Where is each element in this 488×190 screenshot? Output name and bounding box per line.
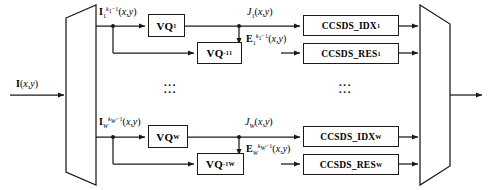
block-diagram: I(x,y) I1k1−1(x,y) IWkW−1(x,y) J1(x,y) J… <box>0 0 488 190</box>
ellipsis-left: ······ <box>160 82 180 95</box>
index-signal-label-1: J1(x,y) <box>247 6 273 17</box>
ccsds-idx-block-w[interactable]: CCSDS_IDXW <box>303 126 399 147</box>
junction-dot <box>237 135 241 139</box>
input-signal-label: I(x,y) <box>16 78 38 89</box>
junction-dot <box>237 24 241 28</box>
residual-signal-label-1: E1k1−1(x,y) <box>246 33 286 44</box>
residual-signal-label-w: EWkW−1(x,y) <box>246 143 290 154</box>
junction-dot <box>111 135 115 139</box>
junction-dot <box>111 24 115 28</box>
vq-block-w[interactable]: VQW <box>148 125 188 148</box>
index-signal-label-w: JW(x,y) <box>245 116 273 127</box>
vq-inverse-block-w[interactable]: VQ-1W <box>197 153 244 175</box>
mux-shape <box>420 5 450 185</box>
band-label-1: I1k1−1(x,y) <box>99 6 137 17</box>
ellipsis-right: ······ <box>335 82 355 95</box>
vq-block-1[interactable]: VQ1 <box>148 14 185 37</box>
connector-layer <box>0 0 488 190</box>
demux-shape <box>66 5 96 185</box>
ccsds-res-block-1[interactable]: CCSDS_RES1 <box>303 43 399 64</box>
ccsds-res-block-w[interactable]: CCSDS_RESW <box>303 154 399 175</box>
ccsds-idx-block-1[interactable]: CCSDS_IDX1 <box>303 15 399 36</box>
band-label-w: IWkW−1(x,y) <box>99 116 141 127</box>
vq-inverse-block-1[interactable]: VQ-11 <box>197 42 242 64</box>
